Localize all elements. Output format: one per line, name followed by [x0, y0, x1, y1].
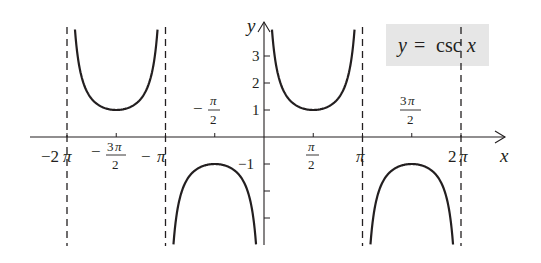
x-tick-neg3pi2-den: 2: [112, 157, 119, 172]
y-tick-3: 3: [252, 48, 260, 64]
legend: y = csc x: [386, 24, 489, 66]
legend-equals: =: [414, 34, 425, 56]
x-tick-pi2-den: 2: [308, 157, 315, 172]
csc-branch: [173, 164, 256, 244]
x-axis-label: x: [499, 145, 509, 166]
x-tick-pi2: π 2: [306, 139, 319, 172]
legend-y: y: [396, 34, 407, 57]
x-tick-negpi-minus: −: [141, 147, 151, 166]
x-tick-2pi-pi: π: [459, 147, 468, 166]
x-tick-neg2pi-coef: −2: [41, 147, 59, 166]
y-tick-1: 1: [252, 102, 260, 118]
csc-branch: [75, 30, 158, 110]
x-tick-3pi2: 3 π 2: [400, 93, 421, 127]
x-tick-negpi: − π: [141, 147, 166, 166]
y-tick-2: 2: [252, 75, 260, 91]
x-tick-3pi2-num3: 3: [400, 93, 407, 108]
legend-x: x: [466, 34, 476, 56]
x-tick-3pi2-numpi: π: [408, 93, 415, 108]
x-tick-pi2-num: π: [308, 139, 315, 154]
x-tick-negpi2-den: 2: [210, 112, 217, 127]
x-tick-3pi2-den: 2: [407, 112, 414, 127]
y-axis-label: y: [245, 15, 256, 36]
csc-branch: [370, 164, 453, 244]
x-tick-negpi2: − π 2: [193, 93, 220, 127]
y-tick-neg1: −1: [238, 156, 254, 172]
x-tick-neg2pi: −2 π: [41, 147, 72, 166]
x-tick-pi-label: π: [356, 147, 365, 166]
x-tick-neg2pi-pi: π: [63, 147, 72, 166]
x-tick-neg3pi2-minus: −: [91, 142, 101, 161]
x-tick-negpi2-minus: −: [193, 99, 203, 118]
x-tick-neg3pi2-num3: 3: [107, 139, 114, 154]
csc-graph: y = csc x y x 3 2 1 −1 −2 π − 3 π 2 − π …: [0, 0, 541, 263]
x-tick-2pi: 2 π: [448, 147, 468, 166]
csc-branch: [272, 30, 355, 110]
x-tick-neg3pi2: − 3 π 2: [91, 139, 126, 172]
x-tick-negpi2-num: π: [210, 93, 217, 108]
x-tick-negpi-pi: π: [157, 147, 166, 166]
legend-function: csc: [436, 34, 462, 56]
x-tick-pi: π: [356, 147, 365, 166]
x-tick-2pi-coef: 2: [448, 147, 457, 166]
x-tick-neg3pi2-numpi: π: [115, 139, 122, 154]
